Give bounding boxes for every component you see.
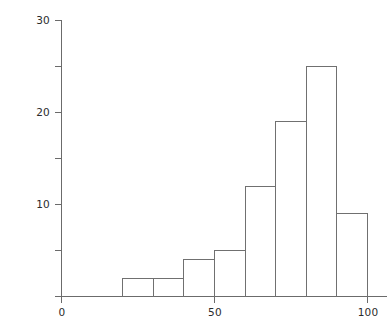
histogram-bar-40-50	[183, 259, 215, 297]
histogram-bar-30-40	[153, 278, 185, 297]
y-axis-label-30: 30	[16, 14, 50, 26]
y-tick-10	[55, 204, 62, 205]
y-tick-5	[55, 250, 62, 251]
y-tick-20	[55, 112, 62, 113]
histogram-bar-70-80	[275, 121, 307, 297]
histogram-bar-90-100	[336, 213, 368, 297]
x-axis-label-50: 50	[199, 306, 231, 318]
histogram-bar-60-70	[245, 186, 277, 297]
y-tick-15	[55, 158, 62, 159]
x-tick-100	[367, 296, 368, 303]
x-tick-0	[61, 296, 62, 303]
y-tick-30	[55, 20, 62, 21]
y-axis-label-20: 20	[16, 106, 50, 118]
histogram-bar-80-90	[306, 66, 338, 297]
y-axis-label-10: 10	[16, 198, 50, 210]
histogram-chart: 30 20 10 0 50 100	[0, 0, 388, 327]
histogram-bar-50-60	[214, 250, 246, 297]
x-axis-label-100: 100	[352, 306, 384, 318]
x-axis-label-0: 0	[46, 306, 78, 318]
histogram-bar-20-30	[122, 278, 154, 297]
y-tick-25	[55, 66, 62, 67]
x-tick-50	[214, 296, 215, 303]
